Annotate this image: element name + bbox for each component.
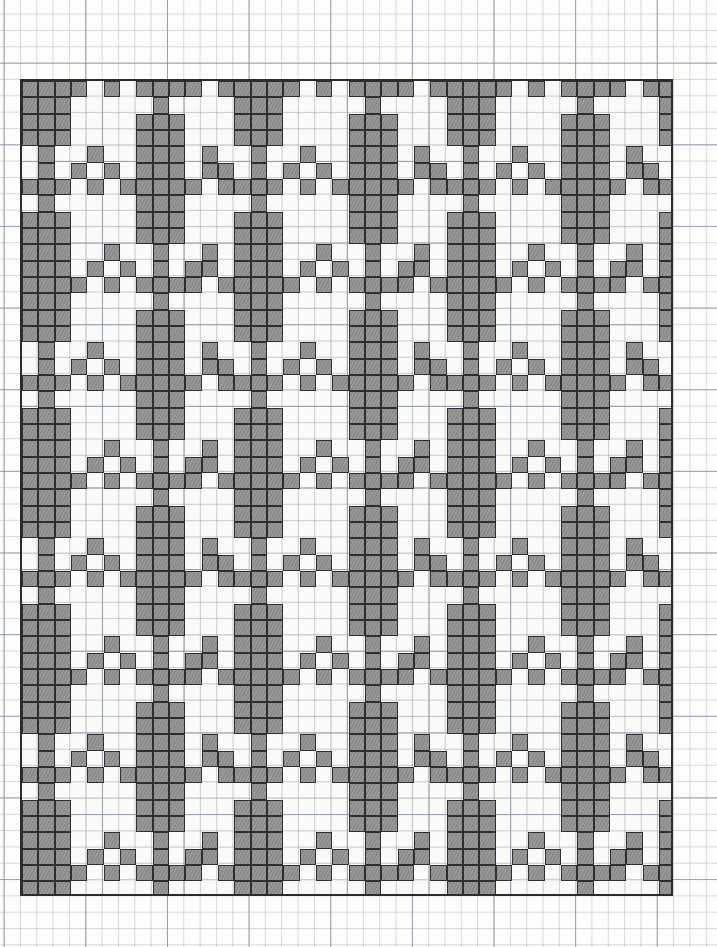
stitch-cell bbox=[71, 555, 87, 571]
stitch-cell bbox=[136, 538, 152, 554]
stitch-cell bbox=[349, 473, 365, 489]
stitch-cell bbox=[153, 457, 169, 473]
stitch-cell bbox=[71, 751, 87, 767]
stitch-cell bbox=[349, 571, 365, 587]
stitch-cell bbox=[626, 359, 642, 375]
chart-design-area[interactable] bbox=[20, 79, 673, 896]
stitch-cell bbox=[38, 571, 54, 587]
stitch-cell bbox=[626, 261, 642, 277]
stitch-cell bbox=[136, 424, 152, 440]
stitch-cell bbox=[120, 457, 136, 473]
stitch-cell bbox=[169, 408, 185, 424]
stitch-cell bbox=[169, 391, 185, 407]
stitch-cell bbox=[610, 865, 626, 881]
stitch-cell bbox=[38, 457, 54, 473]
stitch-cell bbox=[479, 800, 495, 816]
stitch-cell bbox=[55, 277, 71, 293]
stitch-cell bbox=[55, 832, 71, 848]
stitch-cell bbox=[577, 783, 593, 799]
stitch-cell bbox=[528, 81, 544, 97]
stitch-cell bbox=[430, 669, 446, 685]
stitch-cell bbox=[218, 751, 234, 767]
stitch-cell bbox=[87, 849, 103, 865]
stitch-cell bbox=[234, 653, 250, 669]
stitch-cell bbox=[316, 81, 332, 97]
stitch-cell bbox=[365, 783, 381, 799]
stitch-cell bbox=[120, 179, 136, 195]
stitch-cell bbox=[414, 653, 430, 669]
stitch-cell bbox=[626, 457, 642, 473]
stitch-cell bbox=[430, 163, 446, 179]
stitch-cell bbox=[659, 881, 673, 895]
stitch-cell bbox=[545, 179, 561, 195]
stitch-cell bbox=[577, 489, 593, 505]
stitch-cell bbox=[463, 293, 479, 309]
stitch-cell bbox=[447, 489, 463, 505]
stitch-cell bbox=[251, 114, 267, 130]
stitch-cell bbox=[104, 751, 120, 767]
stitch-cell bbox=[136, 718, 152, 734]
stitch-cell bbox=[659, 81, 673, 97]
stitch-cell bbox=[104, 832, 120, 848]
stitch-cell bbox=[349, 391, 365, 407]
stitch-cell bbox=[267, 473, 283, 489]
stitch-cell bbox=[38, 408, 54, 424]
stitch-cell bbox=[594, 718, 610, 734]
stitch-cell bbox=[594, 212, 610, 228]
stitch-cell bbox=[234, 114, 250, 130]
stitch-cell bbox=[300, 179, 316, 195]
stitch-cell bbox=[463, 881, 479, 895]
stitch-cell bbox=[512, 734, 528, 750]
stitch-cell bbox=[153, 571, 169, 587]
stitch-cell bbox=[136, 212, 152, 228]
stitch-cell bbox=[38, 228, 54, 244]
stitch-cell bbox=[267, 212, 283, 228]
stitch-cell bbox=[512, 571, 528, 587]
stitch-cell bbox=[577, 326, 593, 342]
stitch-cell bbox=[136, 800, 152, 816]
stitch-cell bbox=[365, 163, 381, 179]
stitch-cell bbox=[218, 179, 234, 195]
stitch-cell bbox=[643, 571, 659, 587]
stitch-cell bbox=[153, 163, 169, 179]
stitch-cell bbox=[55, 212, 71, 228]
stitch-cell bbox=[169, 522, 185, 538]
stitch-cell bbox=[234, 277, 250, 293]
stitch-cell bbox=[365, 212, 381, 228]
stitch-cell bbox=[120, 375, 136, 391]
stitch-cell bbox=[349, 114, 365, 130]
stitch-cell bbox=[251, 522, 267, 538]
stitch-cell bbox=[561, 163, 577, 179]
stitch-cell bbox=[251, 391, 267, 407]
stitch-cell bbox=[463, 326, 479, 342]
stitch-cell bbox=[365, 473, 381, 489]
stitch-cell bbox=[283, 751, 299, 767]
stitch-cell bbox=[594, 408, 610, 424]
stitch-cell bbox=[479, 130, 495, 146]
stitch-cell bbox=[251, 212, 267, 228]
stitch-cell bbox=[251, 277, 267, 293]
stitch-cell bbox=[153, 261, 169, 277]
stitch-cell bbox=[463, 179, 479, 195]
stitch-cell bbox=[267, 849, 283, 865]
stitch-cell bbox=[38, 685, 54, 701]
stitch-cell bbox=[479, 81, 495, 97]
stitch-cell bbox=[55, 636, 71, 652]
stitch-cell bbox=[577, 734, 593, 750]
stitch-cell bbox=[447, 604, 463, 620]
stitch-cell bbox=[153, 832, 169, 848]
stitch-cell bbox=[153, 587, 169, 603]
stitch-cell bbox=[22, 685, 38, 701]
stitch-cell bbox=[381, 816, 397, 832]
stitch-cell bbox=[447, 506, 463, 522]
stitch-cell bbox=[430, 751, 446, 767]
stitch-cell bbox=[22, 506, 38, 522]
stitch-cell bbox=[577, 228, 593, 244]
stitch-cell bbox=[659, 408, 673, 424]
stitch-cell bbox=[153, 130, 169, 146]
stitch-cell bbox=[626, 751, 642, 767]
stitch-cell bbox=[218, 865, 234, 881]
stitch-cell bbox=[349, 734, 365, 750]
stitch-cell bbox=[169, 473, 185, 489]
stitch-cell bbox=[234, 571, 250, 587]
